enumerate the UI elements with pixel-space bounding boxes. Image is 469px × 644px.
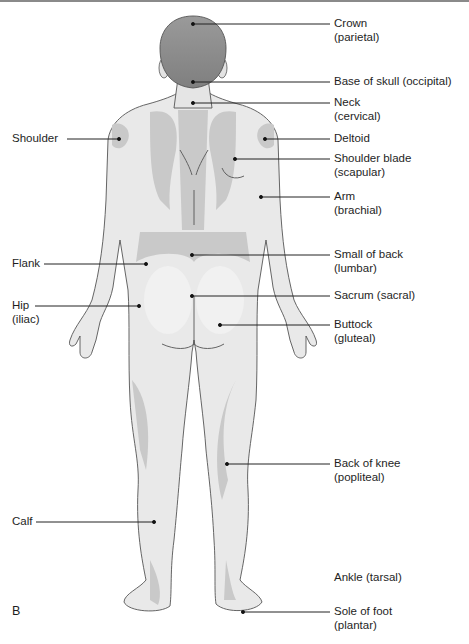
label-flank: Flank <box>12 257 40 271</box>
label-deltoid: Deltoid <box>334 132 370 146</box>
label-back-of-knee: Back of knee (popliteal) <box>334 457 400 484</box>
label-buttock: Buttock (gluteal) <box>334 318 376 345</box>
label-small-of-back: Small of back (lumbar) <box>334 248 403 275</box>
head-hair <box>160 16 226 88</box>
label-sacrum: Sacrum (sacral) <box>334 289 415 303</box>
label-crown: Crown (parietal) <box>334 17 379 44</box>
label-hip: Hip (iliac) <box>12 299 39 326</box>
posterior-body-figure <box>0 0 469 644</box>
cropped-caption-line <box>8 636 468 644</box>
label-calf: Calf <box>12 515 32 529</box>
label-shoulder-blade: Shoulder blade (scapular) <box>334 152 411 179</box>
label-shoulder: Shoulder <box>12 132 58 146</box>
label-base-of-skull: Base of skull (occipital) <box>334 75 452 89</box>
label-ankle: Ankle (tarsal) <box>334 571 402 585</box>
panel-letter: B <box>12 604 20 618</box>
label-sole-of-foot: Sole of foot (plantar) <box>334 605 392 632</box>
label-neck: Neck (cervical) <box>334 96 381 123</box>
label-arm: Arm (brachial) <box>334 190 382 217</box>
